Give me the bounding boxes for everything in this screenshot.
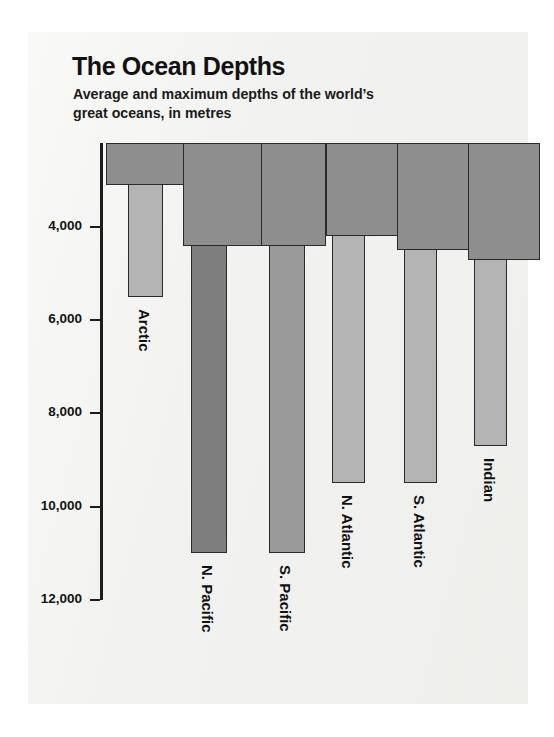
- bar-average-depth: [326, 143, 398, 236]
- y-axis-tick-label: 6,000: [0, 311, 82, 326]
- bar-average-depth: [183, 143, 262, 246]
- category-label-n-atlantic: N. Atlantic: [339, 495, 356, 569]
- y-axis-tick-label: 8,000: [0, 404, 82, 419]
- category-label-n-pacific: N. Pacific: [199, 565, 216, 633]
- bar-average-depth: [261, 143, 326, 246]
- y-axis-tick: [90, 412, 100, 414]
- bar-average-depth: [468, 143, 540, 260]
- chart-title: The Ocean Depths: [72, 52, 285, 81]
- category-label-s-pacific: S. Pacific: [277, 565, 294, 632]
- y-axis-line: [100, 143, 103, 600]
- y-axis-tick-label: 4,000: [0, 218, 82, 233]
- bar-average-depth: [106, 143, 184, 185]
- category-label-arctic: Arctic: [136, 309, 153, 352]
- chart-page: The Ocean Depths Average and maximum dep…: [0, 0, 554, 737]
- y-axis-tick: [90, 599, 100, 601]
- category-label-indian: Indian: [481, 458, 498, 502]
- y-axis-tick-label: 10,000: [0, 498, 82, 513]
- y-axis-tick: [90, 506, 100, 508]
- plot-area: ArcticN. PacificS. PacificN. AtlanticS. …: [100, 143, 506, 600]
- y-axis-tick-label: 12,000: [0, 591, 82, 606]
- y-axis-tick: [90, 226, 100, 228]
- bar-average-depth: [397, 143, 469, 250]
- y-axis-tick: [90, 319, 100, 321]
- category-label-s-atlantic: S. Atlantic: [411, 495, 428, 568]
- chart-subtitle: Average and maximum depths of the world’…: [73, 85, 403, 123]
